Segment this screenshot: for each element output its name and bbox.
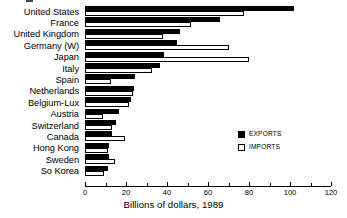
bar-imports — [85, 45, 229, 50]
axis-tick — [249, 182, 250, 186]
bar-chart: United StatesFranceUnited KingdomGermany… — [0, 0, 347, 218]
axis-minor-tick — [147, 183, 148, 186]
category-label: Japan — [54, 52, 79, 63]
category-label: United Kingdom — [14, 29, 79, 40]
category-label: Sweden — [46, 155, 79, 166]
bar-imports — [85, 148, 108, 153]
bar-imports — [85, 79, 111, 84]
legend-swatch-imports-icon — [238, 144, 245, 151]
axis-tick-label: 100 — [284, 188, 297, 197]
axis-tick-label: 40 — [163, 188, 171, 197]
bar-imports — [85, 91, 133, 96]
axis-tick — [331, 182, 332, 186]
bar-imports — [85, 22, 191, 27]
axis-minor-tick — [106, 183, 107, 186]
bar-imports — [85, 11, 244, 16]
axis-minor-tick — [311, 183, 312, 186]
legend-swatch-exports-icon — [238, 131, 245, 138]
axis-tick-label: 80 — [245, 188, 253, 197]
axis-minor-tick — [229, 183, 230, 186]
bar-imports — [85, 171, 104, 176]
category-label: Italy — [62, 64, 79, 75]
category-label: Austria — [50, 109, 79, 120]
axis-minor-tick — [188, 183, 189, 186]
bar-imports — [85, 68, 152, 73]
category-label: Spain — [55, 75, 79, 86]
category-label: Canada — [47, 132, 79, 143]
category-label: Germany (W) — [24, 41, 79, 52]
axis-minor-tick — [270, 183, 271, 186]
bar-imports — [85, 114, 103, 119]
x-axis-title: Billions of dollars, 1989 — [0, 199, 347, 210]
chart-legend: EXPORTS IMPORTS — [238, 129, 308, 155]
category-label: Netherlands — [29, 86, 79, 97]
axis-tick-label: 0 — [83, 188, 87, 197]
legend-item-exports: EXPORTS — [238, 129, 308, 139]
bar-imports — [85, 159, 115, 164]
bar-imports — [85, 34, 163, 39]
bar-imports — [85, 57, 249, 62]
legend-label-imports: IMPORTS — [249, 143, 280, 151]
category-label: United States — [24, 7, 79, 18]
bar-imports — [85, 136, 125, 141]
category-label: France — [50, 18, 79, 29]
category-label: So Korea — [41, 166, 79, 177]
axis-tick — [290, 182, 291, 186]
bar-imports — [85, 102, 129, 107]
axis-tick — [126, 182, 127, 186]
legend-item-imports: IMPORTS — [238, 142, 308, 152]
axis-tick-label: 120 — [325, 188, 338, 197]
bar-imports — [85, 125, 112, 130]
value-axis-line — [85, 186, 331, 187]
axis-tick-label: 60 — [204, 188, 212, 197]
legend-label-exports: EXPORTS — [249, 130, 281, 138]
category-axis-labels: United StatesFranceUnited KingdomGermany… — [0, 6, 82, 178]
axis-tick — [208, 182, 209, 186]
scan-artifact-mark — [26, 0, 33, 2]
category-label: Belgium-Lux — [28, 98, 79, 109]
axis-tick — [167, 182, 168, 186]
axis-tick-label: 20 — [122, 188, 130, 197]
axis-tick — [85, 182, 86, 186]
category-label: Switzerland — [31, 121, 79, 132]
category-label: Hong Kong — [33, 143, 79, 154]
